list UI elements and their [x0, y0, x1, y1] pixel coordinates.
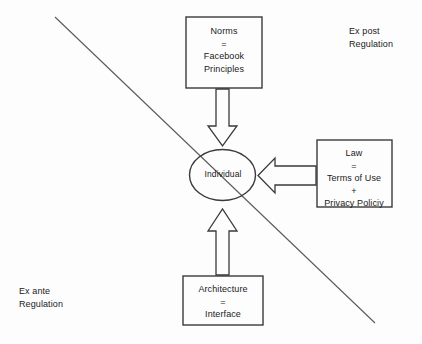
- ex-ante-line-2: Regulation: [19, 298, 63, 311]
- arrow-law-to-individual: [258, 158, 316, 193]
- ex-ante-ex-post-divider-line: [55, 17, 375, 323]
- diagram-canvas: [0, 0, 422, 344]
- architecture-box: [183, 276, 263, 325]
- regulation-modalities-diagram: Norms = Facebook Principles Law = Terms …: [0, 0, 422, 344]
- ex-ante-regulation-label: Ex ante Regulation: [19, 285, 63, 310]
- ex-post-line-1: Ex post: [349, 25, 393, 38]
- individual-ellipse: [190, 150, 256, 201]
- ex-ante-line-1: Ex ante: [19, 285, 63, 298]
- arrow-architecture-to-individual: [208, 209, 237, 275]
- ex-post-line-2: Regulation: [349, 38, 393, 51]
- ex-post-regulation-label: Ex post Regulation: [349, 25, 393, 50]
- arrow-norms-to-individual: [208, 89, 237, 146]
- law-box: [317, 140, 392, 207]
- norms-box: [186, 17, 262, 88]
